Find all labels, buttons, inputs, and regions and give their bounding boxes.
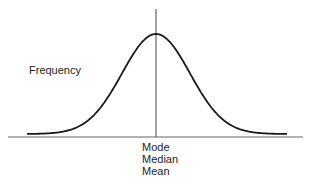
center-labels: Mode Median Mean: [142, 141, 178, 177]
mode-label: Mode: [142, 141, 178, 153]
normal-distribution-curve: [27, 34, 287, 134]
y-axis-label: Frequency: [29, 64, 81, 76]
mean-label: Mean: [142, 165, 178, 177]
median-label: Median: [142, 153, 178, 165]
